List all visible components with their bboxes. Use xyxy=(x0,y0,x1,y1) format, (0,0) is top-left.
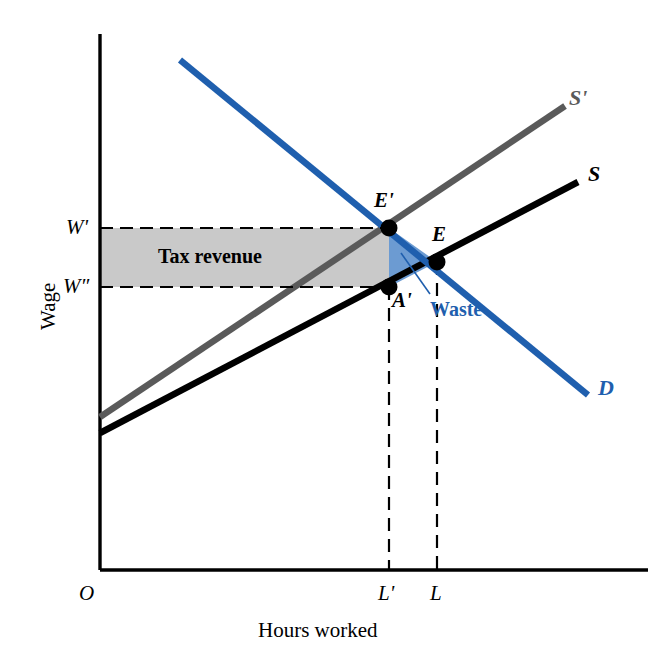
tax-revenue-label: Tax revenue xyxy=(158,246,262,266)
axes-lines xyxy=(100,34,648,570)
y-tick-label-w-prime: W' xyxy=(66,217,88,238)
y-tick-label-w-double-prime: W″ xyxy=(63,276,89,297)
supply-demand-tax-figure: Wage Hours worked O W' W″ L' L S' S D E'… xyxy=(0,0,648,658)
point-label-e-prime: E' xyxy=(374,190,394,211)
point-label-a-prime: A' xyxy=(392,290,412,311)
x-tick-label-l-prime: L' xyxy=(378,583,394,604)
figure-canvas xyxy=(0,0,648,658)
y-axis-title: Wage xyxy=(38,283,59,330)
supply-curve xyxy=(100,182,578,433)
waste-label: Waste xyxy=(430,299,482,319)
point-label-e: E xyxy=(432,224,446,245)
origin-label: O xyxy=(79,583,94,604)
curve-label-s-prime: S' xyxy=(569,87,587,109)
point-e-prime-marker xyxy=(381,220,398,237)
point-e-marker xyxy=(429,254,446,271)
x-axis-title: Hours worked xyxy=(258,620,378,641)
curve-label-d: D xyxy=(598,377,614,399)
curve-label-s: S xyxy=(588,163,600,185)
x-tick-label-l: L xyxy=(430,583,442,604)
